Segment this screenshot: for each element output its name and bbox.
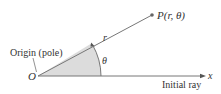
point-label: P(r, θ): [156, 9, 185, 22]
polar-diagram: P(r, θ) r θ Origin (pole) O x Initial ra…: [0, 0, 221, 94]
angle-label: θ: [102, 55, 107, 66]
initial-ray-label: Initial ray: [162, 79, 201, 90]
point-p-dot: [150, 13, 154, 17]
radius-label: r: [103, 32, 107, 43]
origin-letter: O: [28, 70, 36, 82]
origin-label: Origin (pole): [10, 47, 63, 59]
x-axis-arrowhead-icon: [200, 74, 206, 78]
axis-label: x: [207, 70, 213, 81]
